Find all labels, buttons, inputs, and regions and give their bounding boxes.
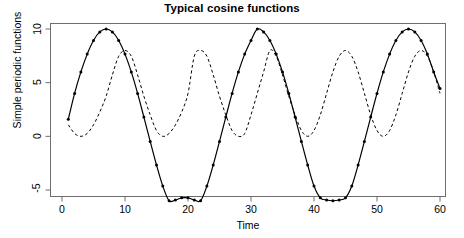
plot-frame <box>51 24 446 197</box>
series-solid-points <box>67 28 442 203</box>
tick-marks <box>46 29 441 202</box>
series-dashed-line <box>68 50 440 137</box>
chart-figure: Typical cosine functions Simple periodic… <box>0 0 464 238</box>
plot-canvas <box>0 0 464 238</box>
